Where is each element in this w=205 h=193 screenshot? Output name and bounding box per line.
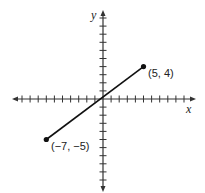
endpoint-end: [141, 64, 146, 69]
y-axis-label: y: [90, 8, 97, 22]
x-axis-left-arrow-icon: [12, 97, 18, 102]
x-axis-label: x: [185, 102, 192, 116]
line-segment: [46, 67, 143, 140]
y-axis-down-arrow-icon: [101, 186, 106, 192]
endpoint-start: [44, 137, 49, 142]
endpoint-start-label: (−7, −5): [51, 140, 90, 152]
y-axis-up-arrow-icon: [101, 10, 106, 16]
coordinate-plane: y x (5, 4) (−7, −5): [0, 0, 205, 193]
endpoint-end-label: (5, 4): [148, 67, 174, 79]
x-axis-right-arrow-icon: [190, 97, 196, 102]
